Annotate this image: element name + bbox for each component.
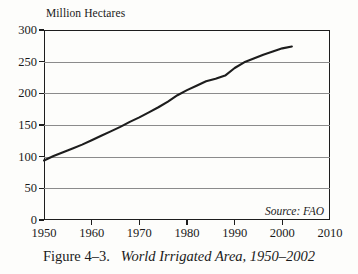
y-tick-label-300: 300: [0, 23, 37, 38]
x-tick-label-1960: 1960: [79, 226, 104, 241]
series-polyline: [44, 46, 292, 160]
y-tick-label-100: 100: [0, 149, 37, 164]
y-tick-label-200: 200: [0, 86, 37, 101]
x-tick-label-2010: 2010: [318, 226, 343, 241]
y-tick-label-250: 250: [0, 54, 37, 69]
figure-container: Million Hectares Source: FAO 05010015020…: [0, 0, 358, 274]
x-tick-label-1990: 1990: [222, 226, 247, 241]
x-tick-mark-1960: [91, 220, 92, 225]
y-tick-mark-100: [39, 156, 44, 157]
figure-caption: Figure 4–3. World Irrigated Area, 1950–2…: [0, 248, 358, 265]
line-series-world-irrigated-area: [44, 30, 330, 220]
y-tick-mark-50: [39, 188, 44, 189]
y-tick-mark-250: [39, 61, 44, 62]
caption-number: Figure 4–3.: [43, 248, 110, 264]
y-tick-mark-0: [39, 219, 44, 220]
x-tick-label-1950: 1950: [32, 226, 57, 241]
caption-title: World Irrigated Area, 1950–2002: [121, 248, 315, 264]
x-tick-label-2000: 2000: [270, 226, 295, 241]
x-tick-label-1970: 1970: [127, 226, 152, 241]
x-tick-mark-1980: [186, 220, 187, 225]
x-tick-mark-1990: [234, 220, 235, 225]
source-note: Source: FAO: [265, 205, 324, 217]
y-tick-mark-200: [39, 93, 44, 94]
y-tick-label-50: 50: [0, 181, 37, 196]
y-tick-mark-300: [39, 29, 44, 30]
y-tick-mark-150: [39, 124, 44, 125]
y-tick-label-150: 150: [0, 118, 37, 133]
x-tick-mark-1970: [139, 220, 140, 225]
y-axis-title: Million Hectares: [46, 7, 125, 19]
plot-area: Source: FAO: [44, 30, 330, 220]
x-tick-mark-2000: [282, 220, 283, 225]
x-tick-label-1980: 1980: [175, 226, 200, 241]
